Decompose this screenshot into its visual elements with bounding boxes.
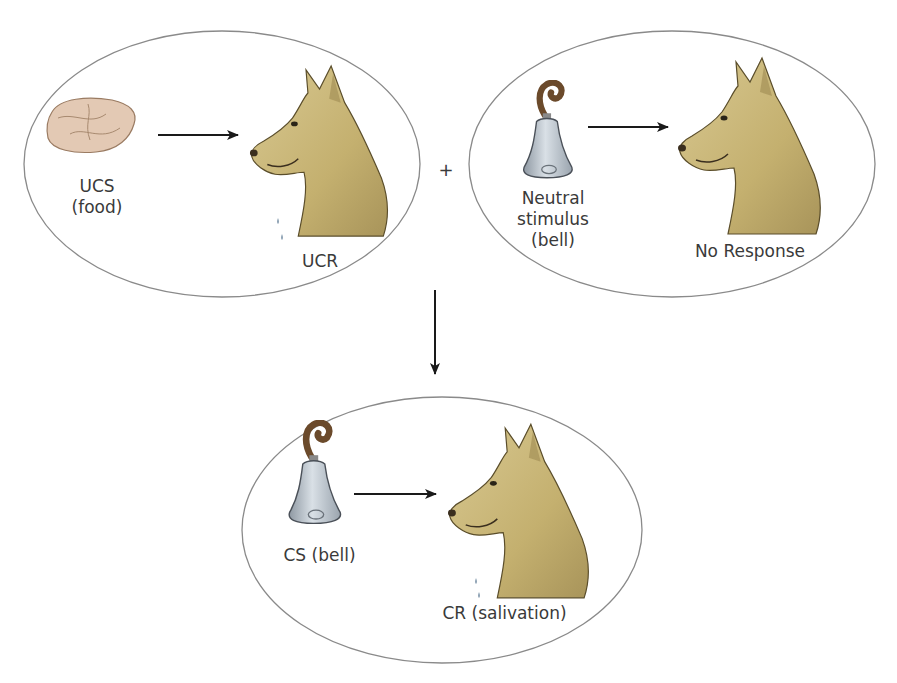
plus-sign: + <box>438 159 453 180</box>
ucs-label-line1: UCS <box>52 176 142 197</box>
neutral-label-line1: Neutral <box>508 188 598 209</box>
saliva-drops-icon <box>277 218 283 240</box>
dog-icon <box>678 58 820 234</box>
ucs-label-line2: (food) <box>52 197 142 218</box>
cr-label: CR (salivation) <box>432 603 577 624</box>
neutral-label-line2: stimulus <box>508 209 598 230</box>
ucr-label: UCR <box>280 251 360 272</box>
neutral-stimulus-label: Neutral stimulus (bell) <box>508 188 598 251</box>
no-response-label: No Response <box>680 241 820 262</box>
diagram-canvas: + <box>0 0 897 683</box>
salivating-dog-icon <box>448 424 588 598</box>
cs-label: CS (bell) <box>272 545 367 566</box>
neutral-label-line3: (bell) <box>508 230 598 251</box>
food-icon <box>47 98 135 152</box>
bell-icon <box>524 83 573 178</box>
ucs-label: UCS (food) <box>52 176 142 218</box>
saliva-drops-icon <box>475 578 480 598</box>
salivating-dog-icon <box>250 66 388 236</box>
